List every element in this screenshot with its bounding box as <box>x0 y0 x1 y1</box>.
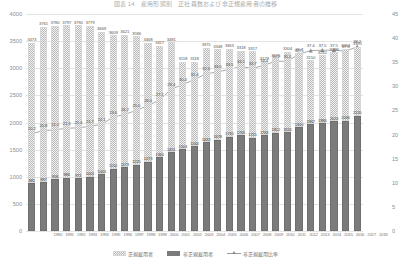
bar-value-label-regular: 3118 <box>190 56 199 61</box>
bar-value-label-nonregular: 1816 <box>283 127 292 132</box>
bar-value-label-regular: 3348 <box>213 44 222 49</box>
x-axis-tick: 2005 <box>228 232 237 237</box>
bar-value-label-nonregular: 986 <box>63 172 69 177</box>
bar-segment-nonregular <box>203 142 210 231</box>
rate-value-label: 21.0 <box>51 122 59 127</box>
rate-value-label: 20.8 <box>40 123 48 128</box>
bar-value-label-regular: 3118 <box>179 56 188 61</box>
table-row[interactable] <box>179 14 186 231</box>
bar-segment-nonregular <box>156 157 163 231</box>
legend-swatch-regular-icon <box>113 251 126 256</box>
rate-value-label: 26.0 <box>144 98 152 103</box>
table-row[interactable] <box>354 14 361 231</box>
rate-value-label: 38.2 <box>353 39 361 44</box>
bar-value-label-nonregular: 958 <box>52 174 58 179</box>
bar-segment-regular <box>121 35 128 168</box>
table-row[interactable] <box>272 14 279 231</box>
y-axis-tick-left: 3500 <box>0 38 22 44</box>
bar-segment-nonregular <box>191 146 198 231</box>
bar-value-label-nonregular: 971 <box>75 173 81 178</box>
bar-segment-regular <box>86 26 93 177</box>
bar-value-label-nonregular: 1633 <box>202 137 211 142</box>
x-axis-tick: 1994 <box>100 232 109 237</box>
bar-segment-regular <box>203 48 210 143</box>
x-axis-tick: 1997 <box>135 232 144 237</box>
bar-value-label-nonregular: 897 <box>40 177 46 182</box>
bar-value-label-nonregular: 1564 <box>190 141 199 146</box>
rate-value-label: 21.3 <box>63 121 71 126</box>
table-row[interactable] <box>191 14 198 231</box>
bar-value-label-regular: 3779 <box>85 20 94 25</box>
bar-value-label-regular: 3363 <box>225 43 234 48</box>
table-row[interactable] <box>110 14 117 231</box>
table-row[interactable] <box>28 14 35 231</box>
rate-value-label: 22.1 <box>98 117 106 122</box>
legend-item-nonregular[interactable]: 非正規雇用者 <box>167 250 213 257</box>
bar-value-label-regular: 3761 <box>39 21 48 26</box>
table-row[interactable] <box>261 14 268 231</box>
x-axis-tick: 2003 <box>205 232 214 237</box>
bar-value-label-regular: 3797 <box>62 20 71 25</box>
bar-segment-nonregular <box>75 178 82 231</box>
bar-segment-nonregular <box>179 149 186 231</box>
table-row[interactable] <box>133 14 140 231</box>
y-axis-tick-right: 40 <box>392 35 403 41</box>
y-axis-tick-right: 35 <box>392 59 403 65</box>
bar-value-label-regular: 3150 <box>306 55 315 60</box>
x-axis-tick: 2001 <box>181 232 190 237</box>
table-row[interactable] <box>156 14 163 231</box>
x-axis-tick: 2006 <box>239 232 248 237</box>
x-axis-tick: 2007 <box>251 232 260 237</box>
bar-segment-regular <box>156 46 163 158</box>
bar-segment-nonregular <box>330 121 337 231</box>
bar-value-label-regular: 3473 <box>27 37 36 42</box>
bar-segment-regular <box>133 36 140 164</box>
x-axis-tick: 2015 <box>344 232 353 237</box>
x-axis-tick: 1998 <box>146 232 155 237</box>
bar-segment-regular <box>354 47 361 116</box>
bar-value-label-nonregular: 2023 <box>330 116 339 121</box>
x-axis-tick: 2009 <box>274 232 283 237</box>
y-axis-tick-right: 45 <box>392 11 403 17</box>
bar-segment-nonregular <box>40 182 47 231</box>
legend-label-rate: 非正規雇用比率 <box>243 250 278 257</box>
bar-value-label-nonregular: 1173 <box>121 162 129 167</box>
rate-value-label: 37.4 <box>307 43 315 48</box>
bar-value-label-nonregular: 1763 <box>260 130 269 135</box>
bar-value-label-nonregular: 1451 <box>167 147 176 152</box>
y-axis-tick-left: 1000 <box>0 174 22 180</box>
bar-value-label-regular: 3242 <box>318 50 327 55</box>
bar-segment-regular <box>284 52 291 133</box>
bar-segment-nonregular <box>284 132 291 231</box>
x-axis-tick: 2008 <box>263 232 272 237</box>
chart-legend: 正規雇用者 非正規雇用者 非正規雇用比率 <box>0 250 391 257</box>
bar-value-label-regular: 3468 <box>144 37 153 42</box>
bar-segment-nonregular <box>28 183 35 231</box>
legend-swatch-rate-line-icon <box>227 251 241 256</box>
bar-value-label-nonregular: 2120 <box>353 110 362 115</box>
bar-value-label-nonregular: 1273 <box>144 156 153 161</box>
bar-segment-nonregular <box>295 127 302 231</box>
bar-segment-regular <box>179 62 186 150</box>
y-axis-tick-left: 2500 <box>0 92 22 98</box>
bar-value-label-nonregular: 1765 <box>237 130 246 135</box>
bar-segment-nonregular <box>63 178 70 231</box>
x-axis-tick: 2010 <box>286 232 295 237</box>
y-axis-tick-right: 5 <box>392 204 403 210</box>
legend-label-nonregular: 非正規雇用者 <box>183 250 213 257</box>
bar-value-label-nonregular: 1678 <box>213 134 222 139</box>
rate-value-label: 37.3 <box>342 44 350 49</box>
legend-item-regular[interactable]: 正規雇用者 <box>113 250 154 257</box>
table-row[interactable] <box>168 14 175 231</box>
table-row[interactable] <box>98 14 105 231</box>
bar-segment-nonregular <box>307 124 314 231</box>
table-row[interactable] <box>121 14 128 231</box>
bar-value-label-regular: 3669 <box>97 26 106 31</box>
bar-segment-nonregular <box>249 138 256 231</box>
table-row[interactable] <box>144 14 151 231</box>
bar-segment-nonregular <box>86 177 93 231</box>
bar-segment-regular <box>110 35 117 168</box>
legend-item-rate[interactable]: 非正規雇用比率 <box>227 250 279 257</box>
y-axis-tick-right: 15 <box>392 156 403 162</box>
rate-value-label: 20.2 <box>28 126 36 131</box>
